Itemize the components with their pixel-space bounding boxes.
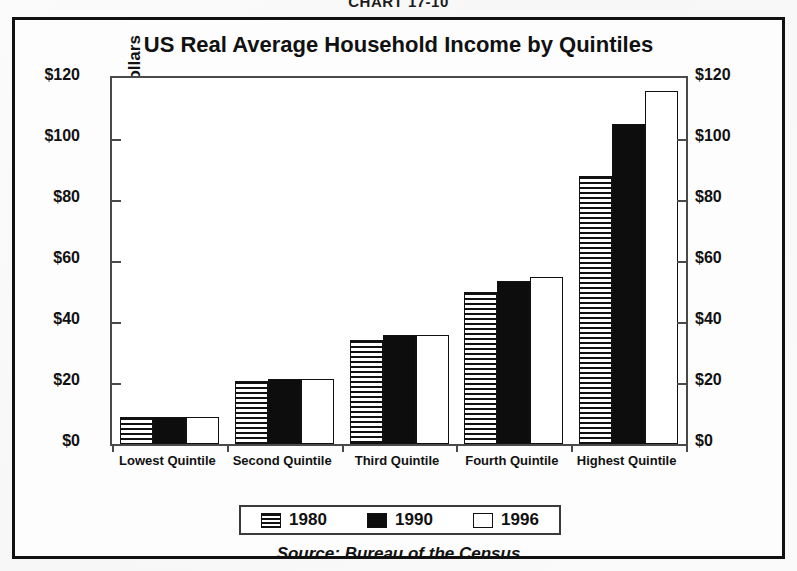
bar-1990-third-quintile: [383, 335, 416, 444]
y-axis-tick-label-right-60: $60: [695, 249, 722, 267]
x-axis-label-fourth-quintile: Fourth Quintile: [454, 453, 569, 468]
bar-1996-fourth-quintile: [530, 277, 563, 444]
bar-1996-lowest-quintile: [186, 417, 219, 444]
horizontal-stripe-swatch: [261, 513, 281, 528]
x-axis-label-third-quintile: Third Quintile: [340, 453, 455, 468]
bar-1980-second-quintile: [235, 381, 268, 444]
plot-area: [110, 76, 688, 446]
bar-1980-highest-quintile: [579, 176, 612, 444]
legend-item-1980[interactable]: 1980: [261, 510, 327, 530]
y-axis-tick-label-right-20: $20: [695, 371, 722, 389]
y-axis-tick-label-right-80: $80: [695, 188, 722, 206]
y-axis-tick-left: [112, 322, 121, 324]
x-axis-label-second-quintile: Second Quintile: [225, 453, 340, 468]
chart-frame: US Real Average Household Income by Quin…: [12, 17, 785, 559]
bar-group: [464, 78, 563, 444]
bar-1990-fourth-quintile: [497, 281, 530, 444]
y-axis-tick-label-left-120: $120: [44, 66, 80, 84]
bar-group: [579, 78, 678, 444]
y-axis-tick-left: [112, 261, 121, 263]
bar-1996-third-quintile: [416, 335, 449, 444]
x-axis-tick: [342, 444, 344, 452]
y-axis-tick-label-right-40: $40: [695, 310, 722, 328]
bar-1990-lowest-quintile: [153, 417, 186, 444]
y-axis-tick-label-left-0: $0: [62, 432, 80, 450]
bar-1996-second-quintile: [301, 379, 334, 444]
legend-label-1996: 1996: [501, 510, 539, 530]
bar-1980-lowest-quintile: [120, 417, 153, 444]
y-axis-tick-label-right-100: $100: [695, 127, 731, 145]
y-axis-tick-right: [677, 322, 686, 324]
legend-label-1990: 1990: [395, 510, 433, 530]
y-axis-tick-label-right-0: $0: [695, 432, 713, 450]
y-axis-tick-left: [112, 200, 121, 202]
y-axis-tick-right: [677, 261, 686, 263]
legend-label-1980: 1980: [289, 510, 327, 530]
y-axis-tick-left: [112, 139, 121, 141]
y-axis-tick-label-left-100: $100: [44, 127, 80, 145]
bar-group: [120, 78, 219, 444]
y-axis-tick-right: [677, 200, 686, 202]
y-axis-tick-right: [677, 139, 686, 141]
source-note: Source: Bureau of the Census: [15, 544, 782, 564]
x-axis-tick: [227, 444, 229, 452]
bar-1980-third-quintile: [350, 340, 383, 444]
y-axis-tick-label-right-120: $120: [695, 66, 731, 84]
chart-legend: 198019901996: [239, 505, 561, 535]
y-axis-tick-label-left-80: $80: [53, 188, 80, 206]
x-axis-tick: [456, 444, 458, 452]
legend-item-1996[interactable]: 1996: [473, 510, 539, 530]
y-axis-tick-label-left-40: $40: [53, 310, 80, 328]
x-axis-tick: [571, 444, 573, 452]
white-outline-swatch: [473, 513, 493, 528]
y-axis-tick-label-left-60: $60: [53, 249, 80, 267]
y-axis-tick-label-left-20: $20: [53, 371, 80, 389]
figure-caption: CHART 17-10: [0, 0, 797, 9]
bar-group: [235, 78, 334, 444]
bar-1990-highest-quintile: [612, 124, 645, 444]
x-axis-tick: [112, 444, 114, 452]
legend-item-1990[interactable]: 1990: [367, 510, 433, 530]
bar-group: [350, 78, 449, 444]
y-axis-tick-right: [677, 383, 686, 385]
bar-1990-second-quintile: [268, 379, 301, 444]
bar-1996-highest-quintile: [645, 91, 678, 444]
x-axis-tick: [686, 444, 688, 452]
bar-1980-fourth-quintile: [464, 292, 497, 445]
x-axis-label-lowest-quintile: Lowest Quintile: [110, 453, 225, 468]
solid-black-swatch: [367, 513, 387, 528]
y-axis-tick-left: [112, 383, 121, 385]
x-axis-label-highest-quintile: Highest Quintile: [569, 453, 684, 468]
